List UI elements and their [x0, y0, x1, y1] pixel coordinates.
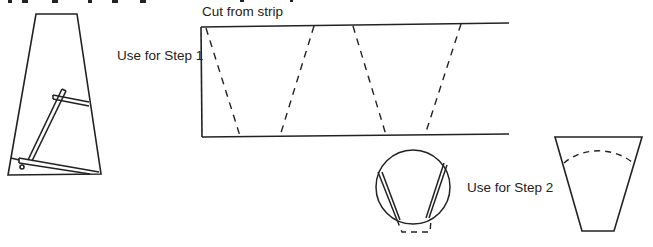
strip-cut-dashes [206, 24, 461, 136]
clipped-heading-fragment [8, 0, 293, 3]
step2-circle-detail [376, 150, 450, 224]
use-for-step2-label: Use for Step 2 [467, 181, 553, 195]
use-for-step1-label: Use for Step 1 [117, 49, 203, 63]
cut-from-strip-label: Cut from strip [202, 5, 283, 19]
step1-trapezoid-with-frame [8, 14, 101, 175]
diagram-canvas [0, 0, 653, 247]
step2-trapezoid-dashed-arc [564, 151, 633, 163]
strip-rectangle [201, 23, 509, 137]
